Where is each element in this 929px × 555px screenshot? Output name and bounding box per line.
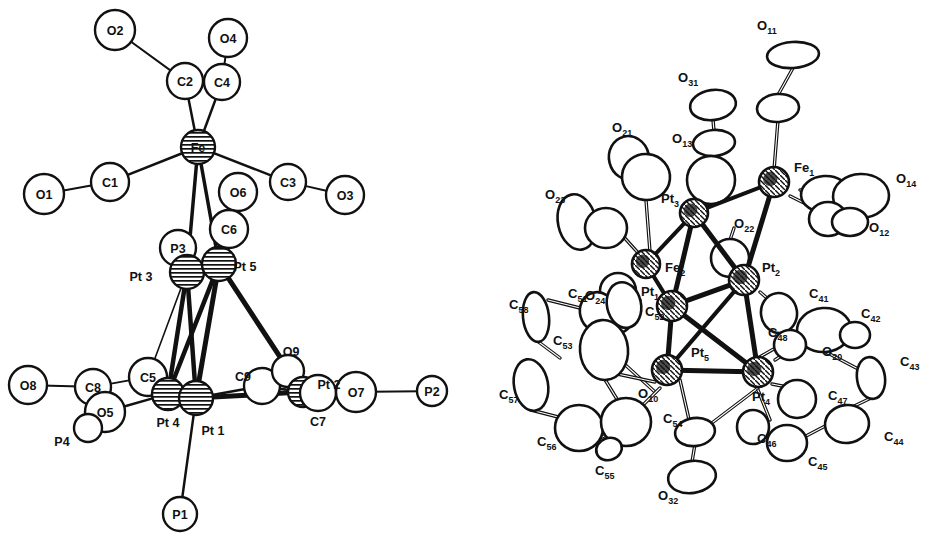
atom-label-C7: C7: [310, 415, 326, 429]
atom-label-C4: C4: [214, 76, 230, 90]
atom-label-Fe: Fe: [191, 141, 206, 155]
atom-label-Pt3: Pt 3: [130, 270, 153, 284]
atom-Pt5: [202, 247, 236, 281]
atom-label-Pt4: Pt 4: [157, 416, 180, 430]
ellipsoid-C47: [778, 380, 816, 418]
metal-shade-Pt5: [656, 360, 670, 374]
metal-shade-Pt4: [747, 362, 761, 376]
atom-Pt3: [170, 255, 204, 289]
ellipsoid-C56: [555, 405, 603, 451]
metal-shade-Pt1: [661, 296, 675, 310]
atom-label-C6: C6: [221, 223, 237, 237]
atom-label-O2: O2: [107, 24, 124, 38]
structure-figure: O2O4C2C4FeO1C1C3O3O6C6P3Pt 3Pt 5C5C8O8O5…: [0, 0, 929, 555]
atom-label-O3: O3: [337, 189, 354, 203]
atom-label-C3: C3: [280, 176, 296, 190]
figure-canvas: O2O4C2C4FeO1C1C3O3O6C6P3Pt 3Pt 5C5C8O8O5…: [0, 0, 929, 555]
atom-label-O7: O7: [348, 386, 365, 400]
atom-label-P2: P2: [424, 385, 439, 399]
ellipsoid-O23b: [585, 208, 627, 248]
atom-label-O8: O8: [20, 379, 37, 393]
atom-label-Pt5: Pt 5: [234, 260, 257, 274]
metal-bond-Pt5-Pt4: [676, 370, 749, 372]
atom-label-C1: C1: [102, 176, 118, 190]
atom-label-P3: P3: [170, 242, 185, 256]
metal-shade-Fe1: [763, 172, 777, 186]
ellipsoid-O13: [687, 156, 735, 204]
atom-label-Pt2: Pt 2: [318, 378, 341, 392]
atom-label-O9: O9: [283, 345, 300, 359]
bond-O7-P2: [370, 391, 421, 392]
atom-label-C9: C9: [235, 370, 251, 384]
atom-label-P4: P4: [54, 435, 69, 449]
atom-Pt1: [179, 381, 213, 415]
atom-label-P1: P1: [172, 508, 187, 522]
metal-shade-Pt2: [733, 270, 747, 284]
atom-label-C2: C2: [177, 75, 193, 89]
atom-label-O6: O6: [230, 186, 247, 200]
atom-label-O4: O4: [220, 32, 237, 46]
ellipsoid-O12b: [832, 208, 868, 236]
atom-label-C5: C5: [140, 371, 156, 385]
atom-label-C8: C8: [85, 381, 101, 395]
metal-shade-Pt3: [684, 203, 697, 216]
atom-label-O5: O5: [97, 406, 114, 420]
atom-label-Pt1: Pt 1: [202, 424, 225, 438]
metal-shade-Fe2: [636, 254, 649, 267]
ellipsoid-C42b: [840, 322, 870, 348]
atom-label-O1: O1: [36, 188, 53, 202]
